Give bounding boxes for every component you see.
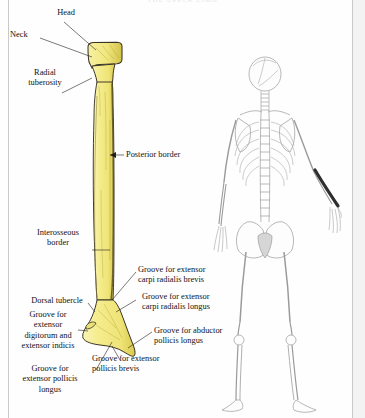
femur-left	[240, 252, 246, 322]
femur-right	[284, 252, 290, 322]
skull	[249, 57, 281, 91]
humerus-right	[294, 120, 314, 172]
hand-right	[329, 206, 341, 233]
foot-right	[293, 400, 316, 412]
tibia-left	[236, 345, 238, 400]
skeleton-body	[214, 57, 341, 412]
fibula-left	[240, 345, 242, 400]
clavicle-left	[240, 111, 262, 115]
figure-page: THE UPPER LIMB	[0, 0, 365, 418]
radius-right-highlighted	[315, 170, 338, 206]
spine	[260, 112, 270, 222]
cervical-spine	[261, 91, 269, 112]
hand-left	[214, 226, 227, 252]
radius-left	[221, 184, 226, 226]
humerus-left	[224, 120, 236, 182]
foot-left	[222, 400, 243, 411]
patella-left	[238, 322, 240, 336]
patella-right	[290, 322, 292, 336]
clavicle-right	[268, 111, 290, 115]
skeleton-locator-figure	[0, 0, 365, 418]
ulna-right	[314, 172, 332, 204]
knee-left	[234, 335, 244, 345]
knee-right	[286, 335, 296, 345]
